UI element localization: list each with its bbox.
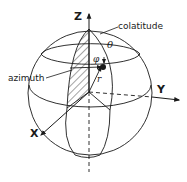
equator: [29, 85, 151, 107]
azimuth-label: azimuth: [8, 73, 44, 83]
colatitude-leader: [100, 27, 118, 34]
upper-latitude-circle: [41, 54, 140, 64]
spherical-coordinates-diagram: Z Y X colatitude azimuth θ φ r: [0, 0, 187, 182]
front-meridian: [66, 108, 75, 155]
x-axis: [41, 92, 89, 135]
colatitude-label: colatitude: [118, 21, 163, 31]
front-meridian-2: [100, 110, 110, 155]
x-axis-label: X: [30, 127, 39, 140]
z-axis-label: Z: [74, 10, 82, 23]
upper-latitude-circle-back: [41, 44, 140, 54]
azimuth-leader: [46, 70, 72, 78]
point-marker: [100, 64, 106, 70]
r-label: r: [97, 74, 102, 84]
y-axis-label: Y: [156, 83, 166, 96]
theta-label: θ: [107, 39, 113, 50]
azimuth-wedge: [67, 29, 89, 108]
phi-label: φ: [93, 54, 100, 64]
y-axis-dashed: [89, 92, 152, 97]
y-axis: [152, 97, 179, 100]
